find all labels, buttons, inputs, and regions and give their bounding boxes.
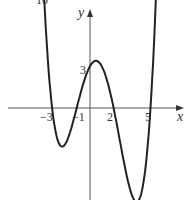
x-tick-neg3: −3 bbox=[40, 111, 53, 123]
x-tick-neg1: −1 bbox=[72, 111, 85, 123]
y-tick-3: 3 bbox=[80, 64, 86, 76]
y-axis-label: y bbox=[78, 6, 84, 20]
chart-canvas bbox=[0, 0, 186, 200]
top-label: 10 bbox=[36, 0, 48, 6]
y-axis-arrow-icon bbox=[87, 9, 93, 17]
x-axis-label: x bbox=[177, 110, 183, 124]
x-tick-5: 5 bbox=[145, 111, 151, 123]
x-tick-2: 2 bbox=[107, 111, 113, 123]
polynomial-curve bbox=[44, 0, 156, 200]
